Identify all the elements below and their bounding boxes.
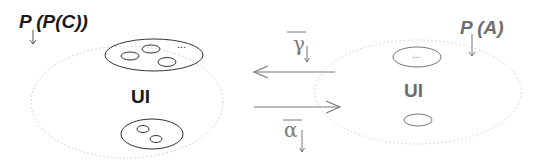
left-domain-label: P (P(C)) <box>19 11 88 33</box>
gamma-arrow <box>254 66 335 78</box>
alpha-down-arrow-icon <box>300 130 305 152</box>
left-ellipsis: ... <box>177 38 186 50</box>
alpha-label: α <box>284 118 298 142</box>
left-bottom-set <box>121 119 183 149</box>
gamma-label: γ <box>293 32 305 56</box>
gamma-down-arrow-icon <box>305 46 310 62</box>
right-ellipsis: ... <box>412 49 420 60</box>
left-top-set <box>105 39 203 71</box>
right-domain-label: P (A) <box>460 17 504 39</box>
left-center-label: UI <box>131 86 150 108</box>
alpha-arrow <box>254 101 340 113</box>
right-center-label: UI <box>404 80 423 102</box>
left-domain-boundary <box>31 46 223 158</box>
